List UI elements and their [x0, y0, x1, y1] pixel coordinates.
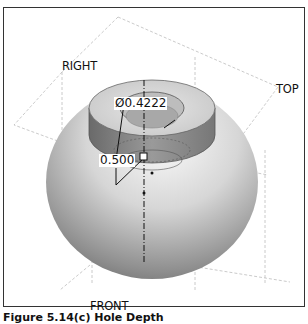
hole-diameter-dimension[interactable]: Ø0.4222 — [114, 97, 167, 110]
hole-depth-dimension[interactable]: 0.500 — [99, 154, 135, 167]
drag-handle — [140, 153, 147, 160]
plane-label-top[interactable]: TOP — [276, 82, 298, 96]
figure-caption: Figure 5.14(c) Hole Depth — [3, 311, 164, 324]
plane-label-right[interactable]: RIGHT — [62, 59, 97, 73]
